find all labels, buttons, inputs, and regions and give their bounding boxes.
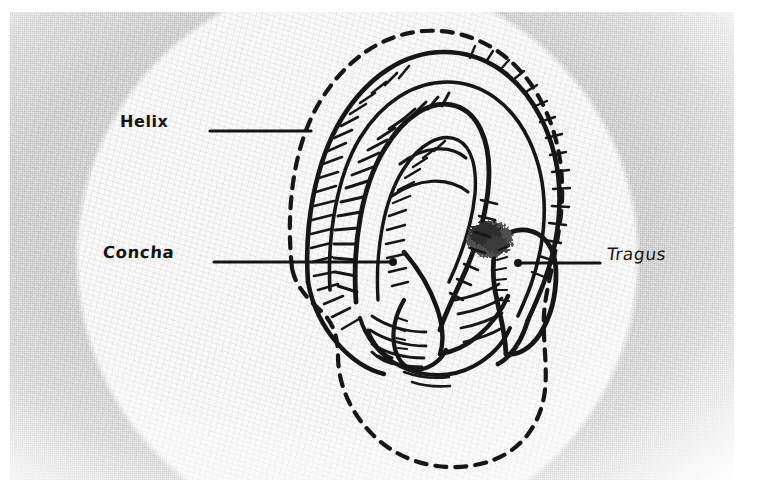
- shaded-blob: [467, 221, 513, 257]
- antihelix-second-fold: [377, 138, 475, 300]
- label-concha: Concha: [102, 243, 175, 262]
- label-helix: Helix: [120, 112, 169, 131]
- helix-inner-edge: [329, 82, 544, 316]
- leader-dot-concha: [389, 258, 397, 266]
- ear-diagram-page: Helix Concha Tragus: [0, 0, 758, 497]
- leader-dot-tragus: [514, 259, 522, 267]
- label-tragus: Tragus: [606, 244, 668, 264]
- helix-rim-contour: [307, 52, 559, 364]
